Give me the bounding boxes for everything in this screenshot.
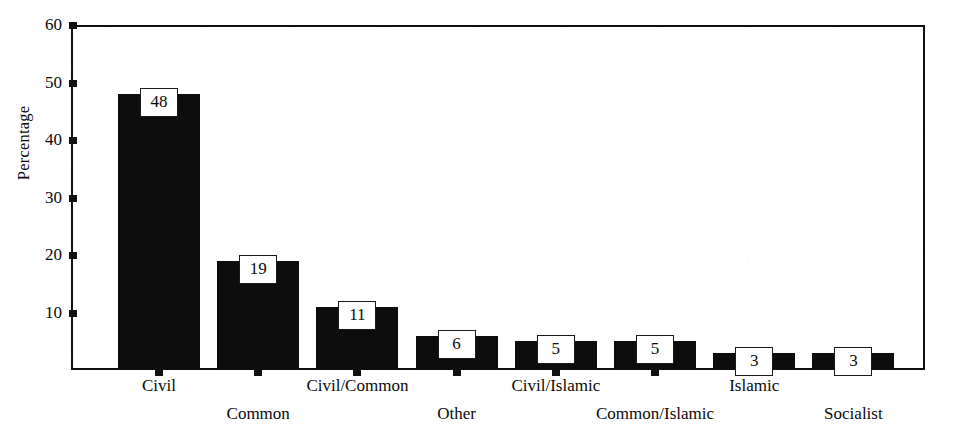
y-axis-tick	[69, 137, 77, 144]
x-axis-category-label: Socialist	[824, 405, 883, 422]
bar-value-label: 5	[636, 335, 674, 364]
y-axis-tick	[69, 80, 77, 87]
bar-value-label: 11	[338, 301, 376, 330]
bar	[118, 94, 200, 370]
x-axis-category-label: Civil/Common	[306, 377, 408, 394]
x-axis-category-label: Common/Islamic	[596, 405, 714, 422]
bar-value-label: 19	[239, 255, 277, 284]
bar-value-label: 3	[834, 347, 872, 376]
y-axis-tick-label: 40	[18, 131, 62, 148]
x-axis-category-label: Other	[437, 405, 476, 422]
x-axis-category-label: Civil	[142, 377, 176, 394]
y-axis-tick	[69, 22, 77, 29]
y-axis-tick-label: 20	[18, 246, 62, 263]
bar-value-label: 5	[537, 335, 575, 364]
x-axis-category-label: Civil/Islamic	[511, 377, 600, 394]
bar-chart: Percentage 605040302010 48191165533 Civi…	[0, 0, 967, 428]
y-axis-tick	[69, 310, 77, 317]
bar-value-label: 48	[140, 88, 178, 117]
x-axis-category-label: Islamic	[729, 377, 779, 394]
y-axis-tick-label: 10	[18, 304, 62, 321]
y-axis-tick-label: 30	[18, 189, 62, 206]
y-axis-tick-label: 50	[18, 74, 62, 91]
bar-value-label: 3	[735, 347, 773, 376]
y-axis-tick-label: 60	[18, 16, 62, 33]
x-axis-category-label: Common	[227, 405, 290, 422]
bar-value-label: 6	[438, 330, 476, 359]
y-axis-tick	[69, 252, 77, 259]
y-axis-tick	[69, 195, 77, 202]
